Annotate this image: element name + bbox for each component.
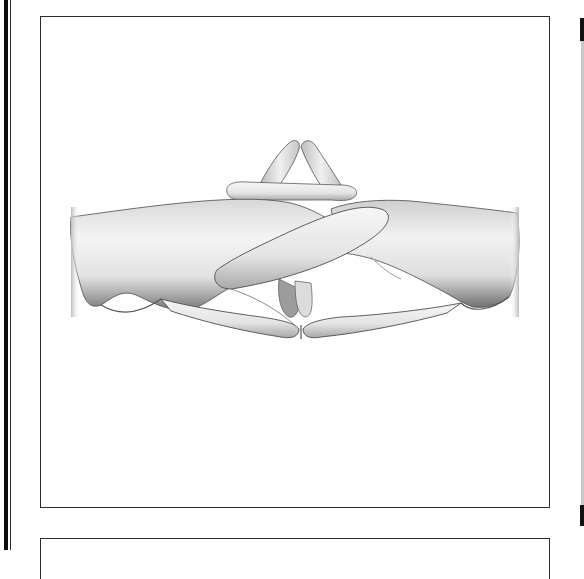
hands-steepled-icon	[41, 17, 549, 507]
figure-frame: two hands with interlaced fingers, steep…	[40, 16, 550, 508]
adjacent-frame-corner-top	[580, 18, 584, 41]
scan-edge-bar-thick	[4, 0, 8, 550]
scan-edge-bar-thin	[10, 0, 11, 550]
next-figure-frame	[40, 538, 550, 579]
adjacent-frame-corner-bottom	[580, 505, 584, 526]
